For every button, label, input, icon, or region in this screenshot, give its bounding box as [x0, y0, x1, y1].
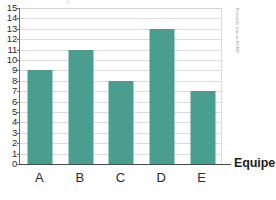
x-axis-tick-labels: ABCDE	[19, 168, 222, 192]
x-axis-tick-label: B	[76, 171, 85, 184]
bar-chart-figure: 0123456789101112131415 ABCDE Equipe Rona…	[0, 0, 276, 200]
bars-group	[20, 8, 222, 164]
bar[interactable]	[109, 81, 134, 164]
scan-artifact	[66, 0, 70, 4]
y-axis-tick-mark	[17, 154, 21, 155]
y-axis-tick-mark	[17, 60, 21, 61]
y-axis-tick-mark	[17, 143, 21, 144]
y-axis-tick-label: 10	[7, 55, 17, 65]
y-axis-tick-mark	[17, 81, 21, 82]
bar-slot	[61, 8, 102, 164]
x-axis-title: Equipe	[234, 156, 275, 170]
bar[interactable]	[28, 70, 53, 164]
y-axis-tick-mark	[17, 102, 21, 103]
y-axis-tick-label: 12	[7, 34, 17, 44]
y-axis-tick-mark	[17, 8, 21, 9]
y-axis-tick-label: 15	[7, 3, 17, 13]
bar-slot	[101, 8, 142, 164]
y-axis-tick-mark	[17, 29, 21, 30]
y-axis-tick-labels: 0123456789101112131415	[0, 8, 17, 164]
bar[interactable]	[190, 91, 215, 164]
bar-slot	[182, 8, 223, 164]
y-axis-tick-mark	[17, 50, 21, 51]
image-credit: Ronaldo Inacio/ID/BR	[231, 8, 242, 84]
x-axis-tick-label: A	[35, 171, 44, 184]
plot-area	[19, 8, 222, 164]
y-axis-tick-mark	[17, 112, 21, 113]
image-credit-text: Ronaldo Inacio/ID/BR	[234, 8, 238, 53]
bar[interactable]	[68, 50, 93, 164]
bar[interactable]	[150, 29, 175, 164]
x-axis-tick-label: E	[197, 171, 206, 184]
y-axis-tick-mark	[17, 70, 21, 71]
x-axis-tick-label: C	[116, 171, 125, 184]
y-axis-tick-mark	[17, 18, 21, 19]
y-axis-tick-mark	[17, 122, 21, 123]
y-axis-tick-label: 13	[7, 24, 17, 34]
y-axis-tick-mark	[17, 39, 21, 40]
y-axis-tick-mark	[17, 133, 21, 134]
y-axis-tick-label: 14	[7, 14, 17, 24]
x-axis-line	[19, 164, 231, 166]
bar-slot	[20, 8, 61, 164]
y-axis-tick-mark	[17, 91, 21, 92]
bar-slot	[142, 8, 183, 164]
x-axis-tick-label: D	[156, 171, 165, 184]
